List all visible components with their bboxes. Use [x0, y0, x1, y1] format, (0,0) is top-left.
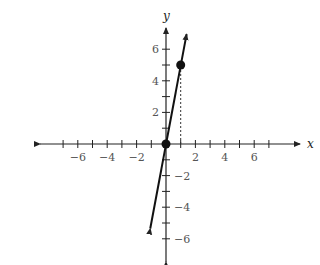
- data-point: [176, 61, 185, 70]
- x-tick-label: 2: [192, 151, 199, 164]
- y-tick-label: −2: [174, 170, 190, 183]
- data-point: [162, 140, 171, 149]
- x-tick-label: −6: [70, 151, 86, 164]
- x-tick-label: 4: [221, 151, 228, 164]
- y-tick-label: 2: [152, 106, 159, 119]
- line-graph: −6−4−2246642−2−4−6 x y: [0, 0, 320, 265]
- y-tick-label: −4: [174, 201, 190, 214]
- y-tick-label: −6: [174, 233, 190, 246]
- y-tick-label: 6: [152, 43, 159, 56]
- x-tick-label: −4: [99, 151, 115, 164]
- y-tick-label: 4: [152, 75, 159, 88]
- y-axis-label: y: [162, 9, 170, 23]
- x-axis-label: x: [307, 137, 314, 151]
- x-tick-label: 6: [251, 151, 258, 164]
- x-tick-label: −2: [128, 151, 144, 164]
